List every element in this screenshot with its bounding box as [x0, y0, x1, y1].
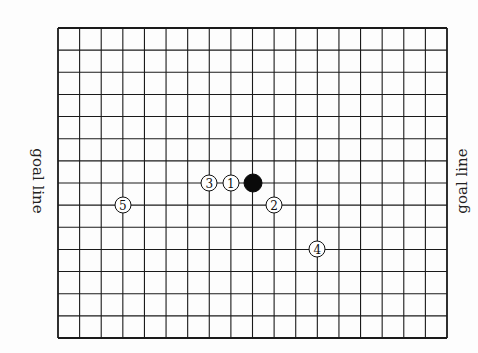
white-stone-5: 5	[114, 197, 131, 214]
move-number: 2	[270, 199, 278, 211]
black-stone	[243, 174, 262, 193]
left-goal-line-label: goal line	[30, 148, 45, 213]
move-number: 5	[119, 199, 127, 211]
white-stone-1: 1	[222, 175, 239, 192]
move-number: 4	[314, 243, 322, 255]
white-stone-2: 2	[266, 197, 283, 214]
move-number: 3	[205, 177, 213, 189]
white-stone-4: 4	[309, 241, 326, 258]
right-goal-line-label: goal line	[455, 148, 470, 213]
grid-board	[0, 0, 478, 353]
move-number: 1	[227, 177, 235, 189]
white-stone-3: 3	[201, 175, 218, 192]
